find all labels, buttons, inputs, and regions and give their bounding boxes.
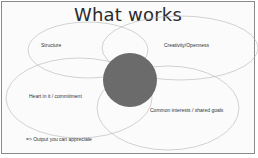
label-common-interests: Common interests / shared goals xyxy=(150,107,223,113)
venn-diagram xyxy=(0,0,258,158)
footer-note: => Output you can appreciate xyxy=(26,136,92,142)
label-structure: Structure xyxy=(41,42,61,48)
label-heart: Heart in it / commitment xyxy=(29,93,82,99)
center-overlap-circle xyxy=(103,53,157,107)
label-creativity: Creativity/Openness xyxy=(164,42,209,48)
